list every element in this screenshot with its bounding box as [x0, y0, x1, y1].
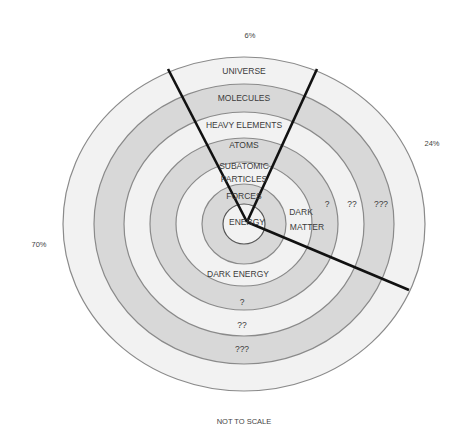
label-dark: DARK: [289, 207, 313, 217]
label-atoms: ATOMS: [229, 140, 259, 150]
label-de-q2: ??: [237, 320, 247, 330]
label-matter: MATTER: [290, 222, 324, 232]
label-de-q1: ?: [240, 297, 245, 307]
label-molecules: MOLECULES: [218, 93, 271, 103]
universe-composition-diagram: UNIVERSE MOLECULES HEAVY ELEMENTS ATOMS …: [0, 0, 465, 446]
label-particles: PARTICLES: [221, 174, 268, 184]
label-dm-q3: ???: [374, 199, 388, 209]
label-heavy-elements: HEAVY ELEMENTS: [206, 120, 283, 130]
percent-dark-matter: 24%: [424, 139, 439, 148]
label-dm-q1: ?: [325, 199, 330, 209]
percent-ordinary-matter: 6%: [245, 31, 256, 40]
label-universe: UNIVERSE: [222, 66, 266, 76]
label-dm-q2: ??: [347, 199, 357, 209]
label-energy: ENERGY: [229, 217, 265, 227]
percent-dark-energy: 70%: [31, 240, 46, 249]
label-subatomic: SUBATOMIC: [219, 161, 269, 171]
label-forces: FORCES: [226, 191, 262, 201]
label-de-q3: ???: [235, 344, 249, 354]
label-dark-energy: DARK ENERGY: [207, 269, 269, 279]
not-to-scale-note: NOT TO SCALE: [217, 417, 272, 426]
